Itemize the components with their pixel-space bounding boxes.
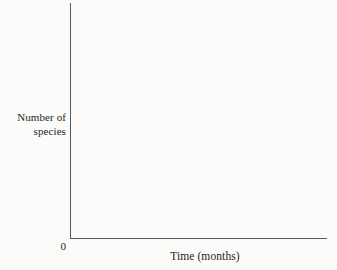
y-axis-title-line-1: Number of xyxy=(0,110,66,124)
chart-figure: Number of species Time (months) 0 xyxy=(0,0,337,270)
x-axis-title: Time (months) xyxy=(105,249,305,263)
y-axis-title: Number of species xyxy=(0,110,66,138)
x-axis-line xyxy=(70,238,327,239)
y-axis-title-line-2: species xyxy=(0,124,66,138)
origin-tick-label: 0 xyxy=(52,240,66,253)
plot-area xyxy=(70,3,327,238)
y-axis-line xyxy=(70,3,71,239)
